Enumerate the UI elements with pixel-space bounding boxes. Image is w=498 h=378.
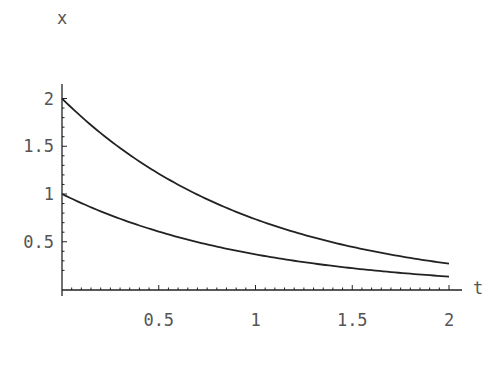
y-tick-label: 0.5 <box>23 232 54 252</box>
y-tick-label: 1 <box>44 184 54 204</box>
x-axis-label: t <box>473 278 483 298</box>
curve-series-2 <box>62 194 449 277</box>
labels: 0.511.520.511.52tx <box>23 8 483 330</box>
y-tick-label: 2 <box>44 89 54 109</box>
x-tick-label: 1 <box>250 310 260 330</box>
y-tick-label: 1.5 <box>23 136 54 156</box>
curves <box>62 99 449 277</box>
axes <box>62 84 462 296</box>
chart: 0.511.520.511.52tx <box>0 0 498 378</box>
x-tick-label: 2 <box>444 310 454 330</box>
x-tick-label: 1.5 <box>337 310 368 330</box>
curve-series-1 <box>62 99 449 264</box>
x-tick-label: 0.5 <box>143 310 174 330</box>
y-axis-label: x <box>57 8 67 28</box>
